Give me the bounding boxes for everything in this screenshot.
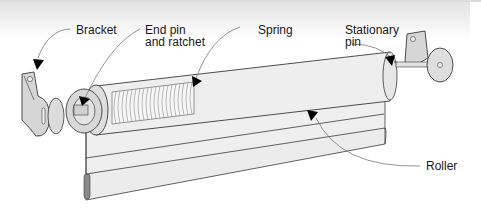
leader-bracket — [38, 29, 70, 58]
label-roller: Roller — [426, 160, 457, 172]
bottom-bar — [84, 174, 90, 199]
label-bracket: Bracket — [76, 24, 117, 36]
label-spring: Spring — [258, 24, 293, 36]
right-bracket — [394, 31, 453, 82]
roller-shade-illustration — [0, 0, 481, 212]
label-end-pin-line2: and ratchet — [145, 36, 205, 48]
end-pin-ratchet — [66, 89, 102, 133]
label-stationary-line2: pin — [345, 36, 361, 48]
arrow-bracket — [33, 59, 44, 70]
left-bracket — [22, 72, 64, 136]
